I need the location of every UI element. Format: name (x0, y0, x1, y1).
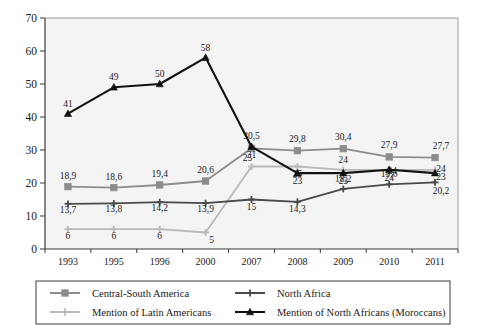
data-point-label: 20,6 (197, 165, 214, 175)
x-tick-label: 1996 (150, 256, 170, 267)
x-tick-label: 1993 (58, 256, 78, 267)
line-chart: 010203040506070 199319951996200020072008… (0, 0, 479, 334)
data-point-label: 6 (66, 231, 71, 241)
y-tick-label: 0 (31, 243, 37, 255)
y-tick-label: 70 (26, 12, 38, 24)
data-point-marker (111, 184, 117, 190)
data-point-label: 23 (436, 172, 446, 182)
data-point-marker (340, 145, 346, 151)
data-point-label: 6 (111, 231, 116, 241)
data-point-label: 13,7 (60, 205, 77, 215)
data-point-marker (432, 154, 438, 160)
x-tick-label: 2008 (287, 256, 307, 267)
data-point-label: 50 (155, 69, 165, 79)
data-point-label: 18,6 (106, 172, 123, 182)
y-tick-label: 10 (26, 210, 38, 222)
data-point-label: 31 (247, 150, 257, 160)
data-point-marker (386, 154, 392, 160)
data-point-marker (62, 290, 68, 296)
data-point-label: 27,9 (381, 140, 398, 150)
data-point-label: 41 (63, 99, 73, 109)
data-point-label: 30,4 (335, 132, 352, 142)
data-point-label: 20,2 (433, 186, 450, 196)
data-point-label: 14,2 (151, 203, 168, 213)
legend-label: North Africa (277, 288, 331, 299)
data-point-label: 24 (339, 155, 349, 165)
data-point-label: 49 (109, 72, 119, 82)
y-tick-label: 50 (26, 78, 38, 90)
data-point-label: 24 (384, 173, 394, 183)
x-tick-label: 2007 (242, 256, 262, 267)
y-axis-ticks: 010203040506070 (26, 12, 46, 255)
data-point-marker (294, 147, 300, 153)
x-tick-label: 1995 (104, 256, 124, 267)
x-tick-label: 2011 (425, 256, 445, 267)
data-point-label: 29,8 (289, 134, 306, 144)
legend-label: Central-South America (92, 288, 189, 299)
data-point-label: 19,4 (151, 169, 168, 179)
data-point-label: 15 (247, 202, 257, 212)
x-tick-label: 2009 (333, 256, 353, 267)
data-point-label: 27,7 (433, 141, 450, 151)
legend-label: Mention of Latin Americans (92, 307, 211, 318)
x-tick-label: 2010 (379, 256, 399, 267)
y-tick-label: 60 (26, 45, 38, 57)
legend-label: Mention of North Africans (Moroccans) (277, 307, 446, 319)
data-point-label: 13,8 (106, 204, 123, 214)
chart-canvas: 010203040506070 199319951996200020072008… (0, 0, 479, 334)
data-point-label: 23 (339, 176, 349, 186)
y-tick-label: 20 (26, 177, 38, 189)
data-point-label: 58 (201, 43, 211, 53)
data-point-label: 23 (293, 176, 303, 186)
data-point-label: 18,9 (60, 171, 77, 181)
data-point-label: 5 (209, 235, 214, 245)
y-tick-label: 30 (26, 144, 38, 156)
y-tick-label: 40 (26, 111, 38, 123)
x-tick-label: 2000 (196, 256, 216, 267)
data-point-label: 14,3 (289, 204, 306, 214)
data-point-label: 6 (157, 231, 162, 241)
data-point-marker (65, 183, 71, 189)
data-point-label: 13,9 (197, 204, 214, 214)
data-point-marker (157, 182, 163, 188)
x-axis-ticks: 199319951996200020072008200920102011 (45, 249, 458, 267)
data-point-marker (202, 178, 208, 184)
